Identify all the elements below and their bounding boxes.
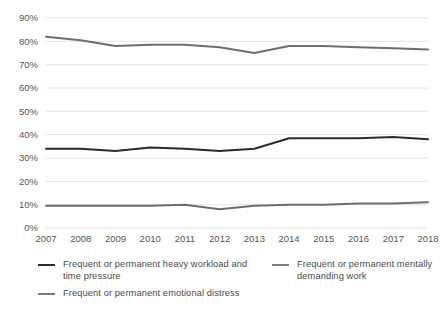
x-axis-tick-label: 2009 — [105, 233, 126, 244]
x-axis-tick-label: 2013 — [244, 233, 265, 244]
legend-item: Frequent or permanent heavy workload and… — [38, 258, 266, 282]
x-axis-tick-label: 2011 — [175, 233, 195, 244]
y-axis-tick-label: 90% — [19, 12, 39, 23]
x-axis-tick-label: 2008 — [70, 233, 91, 244]
series-line — [46, 37, 428, 53]
legend-column-right: Frequent or permanent mentally demanding… — [272, 258, 444, 287]
x-axis-tick-labels: 2007200820092010201120122013201420152016… — [35, 233, 438, 244]
legend-item: Frequent or permanent emotional distress — [38, 287, 266, 299]
y-axis-tick-label: 80% — [19, 36, 39, 47]
legend-line-swatch-icon — [38, 293, 55, 296]
legend-item: Frequent or permanent mentally demanding… — [272, 258, 444, 282]
x-axis-tick-label: 2007 — [35, 233, 56, 244]
y-axis-tick-labels: 0%10%20%30%40%50%60%70%80%90% — [19, 12, 39, 233]
data-series-lines — [46, 37, 428, 210]
y-axis-tick-label: 20% — [19, 176, 39, 187]
legend-line-swatch-icon — [38, 264, 55, 267]
legend-item-label: Frequent or permanent emotional distress — [63, 287, 240, 299]
series-line — [46, 202, 428, 209]
y-axis-tick-label: 30% — [19, 152, 39, 163]
y-axis-tick-label: 70% — [19, 59, 39, 70]
y-axis-tick-label: 60% — [19, 82, 39, 93]
series-line — [46, 137, 428, 151]
chart-legend: Frequent or permanent heavy workload and… — [0, 258, 448, 316]
x-axis-tick-label: 2012 — [209, 233, 230, 244]
x-axis-tick-label: 2018 — [417, 233, 438, 244]
y-axis-tick-label: 40% — [19, 129, 39, 140]
x-axis-tick-label: 2015 — [313, 233, 334, 244]
legend-line-swatch-icon — [272, 264, 289, 267]
legend-item-label: Frequent or permanent heavy workload and… — [63, 258, 266, 282]
x-axis-tick-label: 2014 — [279, 233, 300, 244]
chart-plot-area: 0%10%20%30%40%50%60%70%80%90% 2007200820… — [0, 0, 448, 260]
y-axis-tick-label: 0% — [24, 222, 38, 233]
legend-column-left: Frequent or permanent heavy workload and… — [38, 258, 266, 304]
x-axis-tick-label: 2010 — [140, 233, 161, 244]
x-axis-tick-label: 2016 — [348, 233, 369, 244]
legend-item-label: Frequent or permanent mentally demanding… — [297, 258, 444, 282]
line-chart: 0%10%20%30%40%50%60%70%80%90% 2007200820… — [0, 0, 448, 316]
y-axis-tick-label: 10% — [19, 199, 39, 210]
y-axis-tick-label: 50% — [19, 106, 39, 117]
x-axis-tick-label: 2017 — [383, 233, 404, 244]
